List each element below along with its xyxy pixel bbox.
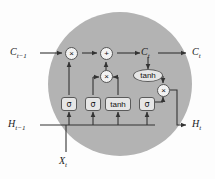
cell-tanh-ellipse: tanh <box>133 69 163 82</box>
label-cell-state-in-base: C <box>10 46 17 57</box>
state-add-node: + <box>100 47 113 60</box>
candidate-gate-box: tanh <box>105 97 131 111</box>
forget-multiply-node: × <box>65 47 78 60</box>
label-cell-state-in: Ct−1 <box>10 46 27 60</box>
forget-gate-box: σ <box>61 97 77 111</box>
label-cell-state-out-base: C <box>192 46 199 57</box>
label-cell-state-out-sub: t <box>199 52 201 60</box>
label-cell-state-mid: Ct <box>141 46 150 60</box>
input-multiply-node: × <box>100 70 113 83</box>
label-cell-state-mid-sub: t <box>148 52 150 60</box>
label-hidden-state-in: Ht−1 <box>8 118 25 132</box>
lstm-cell-diagram: × + × × σ σ tanh σ tanh Ct−1 Ct Ct Ht−1 … <box>0 0 215 179</box>
label-hidden-state-in-sub: t−1 <box>15 124 25 132</box>
input-gate-box: σ <box>85 97 101 111</box>
label-input-x-sub: t <box>65 161 67 169</box>
label-hidden-state-out: Ht <box>192 118 201 132</box>
cell-body-circle <box>48 12 192 156</box>
label-hidden-state-out-sub: t <box>199 124 201 132</box>
label-input-x: Xt <box>59 155 67 169</box>
label-cell-state-mid-base: C <box>141 46 148 57</box>
output-multiply-node: × <box>157 84 170 97</box>
output-gate-box: σ <box>139 97 155 111</box>
label-cell-state-out: Ct <box>192 46 201 60</box>
label-cell-state-in-sub: t−1 <box>17 52 27 60</box>
diagram-canvas <box>0 0 215 179</box>
